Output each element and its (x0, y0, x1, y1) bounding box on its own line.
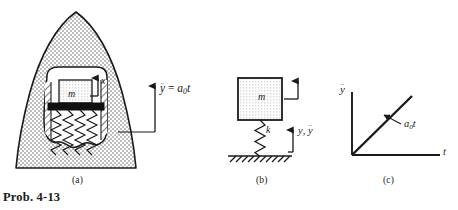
y-double-dot-symbol-a: ..y (160, 83, 165, 95)
x-axis-label-a: x (101, 76, 105, 86)
plot-curve-label: a0t (404, 119, 416, 131)
base-motion-indicator-b (288, 130, 293, 152)
double-dot-marks-a: .. (161, 79, 165, 85)
panel-caption-c: (c) (383, 176, 394, 186)
spring-b (255, 120, 265, 157)
equals-sign-a: = (168, 82, 175, 94)
problem-caption: Prob. 4-13 (3, 190, 60, 205)
panel-a-nose-cone (16, 12, 155, 168)
acceleration-equation-a: ..y = a0t (160, 83, 190, 96)
mass-label-a: m (68, 89, 75, 99)
figure-prob-4-13: m x ..y = a0t m k y, ..y ..y a0t t (a) (… (0, 0, 458, 210)
panel-c-plot (352, 92, 440, 155)
panel-caption-b: (b) (256, 176, 268, 186)
t-symbol-c: t (413, 118, 416, 129)
double-dot-marks-c: .. (341, 80, 345, 86)
plot-line-a0t (352, 96, 412, 155)
y-double-dot-symbol-c: ..y (340, 84, 345, 95)
panel-caption-a: (a) (72, 176, 83, 186)
x-axis-indicator-b (284, 81, 298, 99)
mass-label-b: m (258, 92, 265, 102)
plot-x-axis-label: t (443, 147, 446, 158)
cavity-wall-left (45, 82, 51, 140)
t-symbol-a: t (187, 82, 190, 94)
comma-separator-b: , (303, 125, 306, 136)
mass-block-a (59, 80, 92, 103)
plot-y-axis-label: ..y (340, 84, 345, 95)
spring-constant-label-b: k (266, 125, 270, 135)
y-double-dot-symbol-b: ..y (308, 126, 313, 137)
ground-hatching-b (230, 156, 290, 162)
double-dot-marks-b: .. (308, 122, 312, 128)
support-plate (48, 103, 104, 110)
base-motion-label-b: y, ..y (298, 126, 313, 137)
